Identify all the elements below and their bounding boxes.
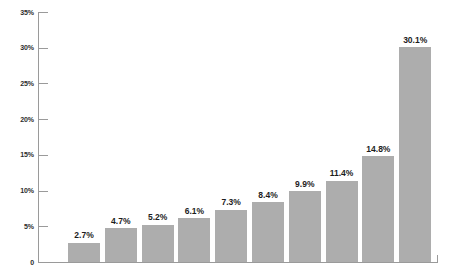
- bar-value-label: 14.8%: [353, 145, 403, 154]
- bar: [326, 181, 358, 262]
- bar-group: 30.1%: [399, 12, 431, 262]
- x-axis-line: [38, 262, 438, 263]
- bar-value-label: 7.3%: [206, 198, 256, 207]
- y-axis-tick-label: 35%: [2, 9, 34, 16]
- y-axis-tick: [38, 262, 48, 263]
- y-axis-tick-label: 25%: [2, 80, 34, 87]
- plot-area: 2.7%4.7%5.2%6.1%7.3%8.4%9.9%11.4%14.8%30…: [38, 12, 438, 262]
- y-axis-tick-label: 30%: [2, 44, 34, 51]
- bar-group: 11.4%: [326, 12, 358, 262]
- y-axis-tick-label: 15%: [2, 151, 34, 158]
- bar: [178, 218, 210, 262]
- bar-group: 7.3%: [215, 12, 247, 262]
- bar: [399, 47, 431, 262]
- bar-value-label: 11.4%: [317, 169, 367, 178]
- bar-group: 4.7%: [105, 12, 137, 262]
- bar: [215, 210, 247, 262]
- y-axis-tick-label: 5%: [2, 223, 34, 230]
- bar: [105, 228, 137, 262]
- bar-value-label: 30.1%: [390, 36, 440, 45]
- bar: [362, 156, 394, 262]
- bar-group: 14.8%: [362, 12, 394, 262]
- bar-group: 9.9%: [289, 12, 321, 262]
- bar-value-label: 9.9%: [280, 180, 330, 189]
- bar-group: 8.4%: [252, 12, 284, 262]
- bar: [142, 225, 174, 262]
- bar-value-label: 6.1%: [169, 207, 219, 216]
- bar-chart: 05%10%15%20%25%30%35% 2.7%4.7%5.2%6.1%7.…: [0, 0, 452, 278]
- bar: [289, 191, 321, 262]
- bar: [252, 202, 284, 262]
- bar-value-label: 2.7%: [59, 231, 109, 240]
- y-axis-tick-label: 10%: [2, 187, 34, 194]
- y-axis-tick-label: 0: [2, 259, 34, 266]
- y-axis-tick-label: 20%: [2, 116, 34, 123]
- bar-value-label: 8.4%: [243, 191, 293, 200]
- bar-group: 6.1%: [178, 12, 210, 262]
- bar: [68, 243, 100, 262]
- bar-group: 5.2%: [142, 12, 174, 262]
